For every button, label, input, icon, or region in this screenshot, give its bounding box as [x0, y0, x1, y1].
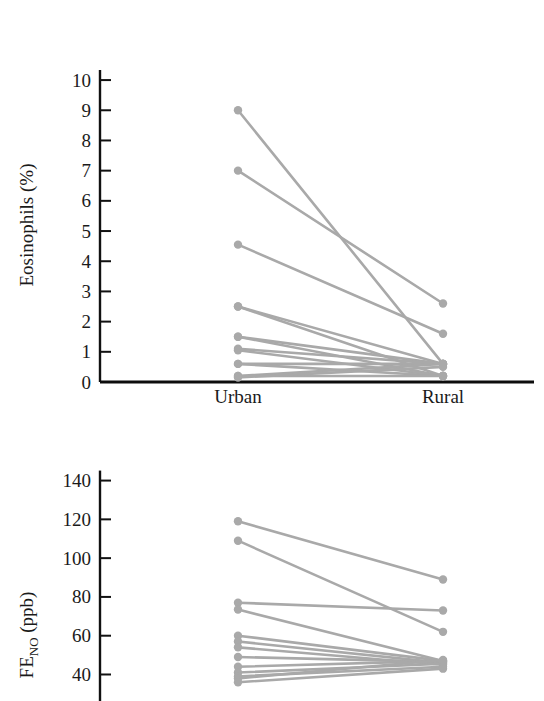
data-point-urban [234, 333, 242, 341]
paired-series [234, 599, 447, 615]
y-axis-tick-label: 60 [72, 625, 91, 646]
paired-series [234, 517, 447, 584]
data-point-rural [439, 628, 447, 636]
data-point-urban [234, 360, 242, 368]
series-group [234, 106, 447, 382]
data-point-rural [439, 656, 447, 664]
y-axis-tick-label: 3 [82, 281, 92, 302]
y-axis-tick-label: 2 [82, 311, 92, 332]
y-axis-tick-label: 10 [72, 70, 91, 91]
y-axis-title: FENO (ppb) [16, 592, 41, 679]
series-group [234, 517, 447, 686]
data-point-urban [234, 106, 242, 114]
feno-plot: 406080100120140FENO (ppb) [0, 420, 544, 701]
series-connector-line [238, 245, 443, 334]
data-point-urban [234, 166, 242, 174]
y-axis-tick-label: 6 [82, 190, 92, 211]
paired-series [234, 166, 447, 307]
y-axis-tick-label: 80 [72, 586, 91, 607]
y-axis-tick-label: 120 [63, 509, 92, 530]
series-connector-line [238, 171, 443, 304]
data-point-urban [234, 302, 242, 310]
data-point-rural [439, 372, 447, 380]
y-axis-tick-label: 7 [82, 160, 92, 181]
y-axis-tick-label: 9 [82, 100, 92, 121]
y-axis-tick-label: 0 [82, 372, 92, 393]
y-axis-title-subscript: NO [26, 637, 41, 656]
data-point-urban [234, 643, 242, 651]
y-axis-tick-label: 8 [82, 130, 92, 151]
y-axis-tick-label: 100 [63, 548, 92, 569]
data-point-urban [234, 536, 242, 544]
y-axis-title-unit: (ppb) [16, 592, 38, 638]
eosinophils-panel: 012345678910UrbanRuralEosinophils (%) [0, 0, 544, 420]
paired-series [234, 240, 447, 337]
series-connector-line [238, 603, 443, 611]
eosinophils-plot: 012345678910UrbanRuralEosinophils (%) [0, 0, 544, 420]
y-axis-tick-label: 5 [82, 221, 92, 242]
x-axis-category-label: Urban [214, 386, 262, 407]
x-axis-category-label: Rural [422, 386, 464, 407]
data-point-rural [439, 329, 447, 337]
data-point-rural [439, 299, 447, 307]
data-point-urban [234, 346, 242, 354]
y-axis-tick-label: 40 [72, 664, 91, 685]
data-point-urban [234, 517, 242, 525]
data-point-urban [234, 373, 242, 381]
y-axis-title: Eosinophils (%) [16, 164, 38, 287]
y-axis-title-main: FE [16, 656, 37, 678]
data-point-rural [439, 363, 447, 371]
data-point-rural [439, 606, 447, 614]
data-point-rural [439, 575, 447, 583]
data-point-urban [234, 678, 242, 686]
paired-slope-figure: 012345678910UrbanRuralEosinophils (%) 40… [0, 0, 544, 701]
data-point-urban [234, 653, 242, 661]
data-point-rural [439, 664, 447, 672]
y-axis-tick-label: 4 [82, 251, 92, 272]
y-axis-tick-label: 1 [82, 341, 92, 362]
paired-series [234, 302, 447, 368]
y-axis-tick-label: 140 [63, 470, 92, 491]
data-point-urban [234, 240, 242, 248]
data-point-urban [234, 605, 242, 613]
series-connector-line [238, 521, 443, 579]
feno-panel: 406080100120140FENO (ppb) [0, 420, 544, 701]
